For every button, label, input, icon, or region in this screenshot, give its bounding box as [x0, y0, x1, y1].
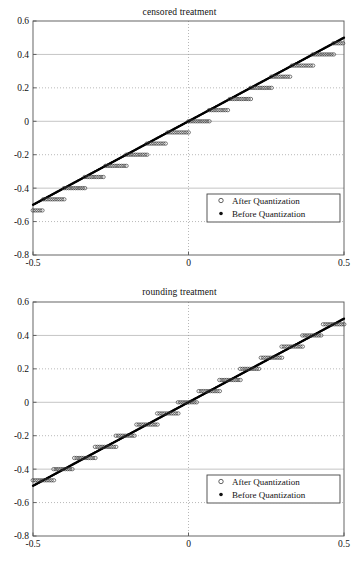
series-after-quantization: [31, 42, 345, 213]
y-tick-label: 0.4: [17, 50, 29, 60]
x-tick-label: 0: [186, 539, 191, 549]
x-tick-label: 0.5: [338, 258, 350, 268]
y-tick-label: 0.2: [17, 364, 29, 374]
y-tick-label: 0.4: [17, 331, 29, 341]
y-tick-label: -0.2: [14, 431, 29, 441]
y-tick-label: 0.6: [17, 297, 29, 307]
plot-area-rounding: -0.8-0.6-0.4-0.200.20.40.6-0.500.5After …: [0, 280, 359, 561]
legend[interactable]: After QuantizationBefore Quantization: [207, 194, 340, 222]
y-tick-label: 0: [24, 117, 29, 127]
y-tick-label: -0.2: [14, 150, 29, 160]
legend-label: After Quantization: [232, 477, 300, 487]
x-tick-label: 0.5: [338, 539, 350, 549]
x-tick-label: 0: [186, 258, 191, 268]
legend[interactable]: After QuantizationBefore Quantization: [207, 475, 340, 503]
y-tick-label: -0.4: [14, 184, 29, 194]
legend-label: After Quantization: [232, 196, 300, 206]
y-tick-label: -0.6: [14, 217, 29, 227]
y-tick-label: 0.6: [17, 16, 29, 26]
y-tick-label: -0.4: [14, 465, 29, 475]
chart-censored-treatment: censored treatment -0.8-0.6-0.4-0.200.20…: [0, 0, 359, 280]
y-tick-label: 0.2: [17, 83, 29, 93]
chart-rounding-treatment: rounding treatment -0.8-0.6-0.4-0.200.20…: [0, 280, 359, 561]
x-tick-label: -0.5: [25, 258, 40, 268]
y-tick-label: 0: [24, 398, 29, 408]
legend-label: Before Quantization: [232, 209, 306, 219]
y-tick-label: -0.6: [14, 498, 29, 508]
plot-area-censored: -0.8-0.6-0.4-0.200.20.40.6-0.500.5After …: [0, 0, 359, 280]
legend-label: Before Quantization: [232, 490, 306, 500]
x-tick-label: -0.5: [25, 539, 40, 549]
